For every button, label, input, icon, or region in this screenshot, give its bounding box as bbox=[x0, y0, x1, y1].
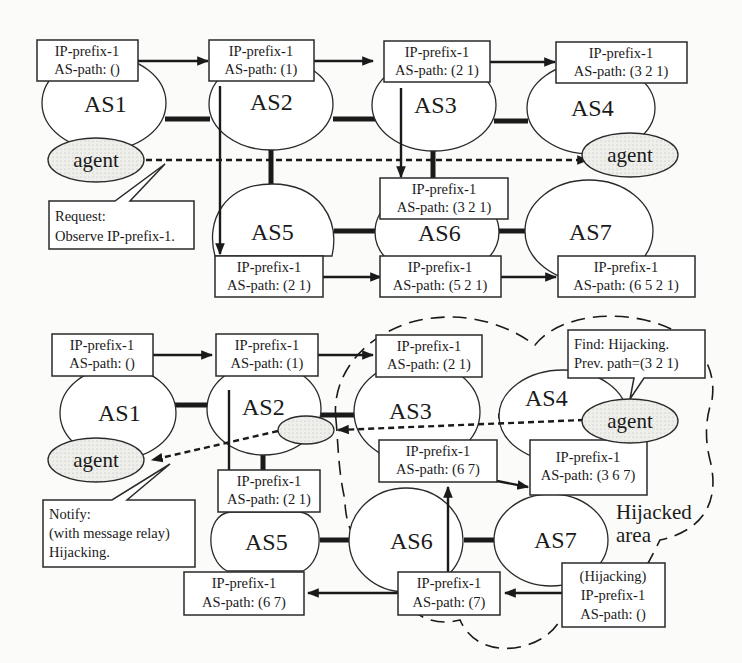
route-box: IP-prefix-1 AS-path: (2 1) bbox=[376, 335, 482, 377]
svg-text:IP-prefix-1: IP-prefix-1 bbox=[405, 44, 469, 60]
svg-text:IP-prefix-1: IP-prefix-1 bbox=[581, 587, 645, 603]
svg-text:Prev. path=(3 2 1): Prev. path=(3 2 1) bbox=[574, 355, 679, 372]
as1-label: AS1 bbox=[98, 400, 141, 426]
hijack-detection-figure: AS1 AS2 AS3 AS4 AS5 AS6 AS7 IP-prefix-1 … bbox=[0, 0, 742, 663]
as1-label: AS1 bbox=[84, 91, 127, 117]
route-box: IP-prefix-1 AS-path: (6 7) bbox=[184, 572, 304, 615]
svg-text:IP-prefix-1: IP-prefix-1 bbox=[556, 449, 620, 465]
as2-label: AS2 bbox=[242, 394, 285, 420]
svg-text:agent: agent bbox=[607, 143, 653, 167]
svg-text:AS-path: (6 7): AS-path: (6 7) bbox=[396, 461, 480, 478]
agent-node: agent bbox=[48, 138, 144, 182]
as6-label: AS6 bbox=[390, 528, 433, 554]
route-box: IP-prefix-1 AS-path: () bbox=[52, 334, 153, 376]
svg-text:IP-prefix-1: IP-prefix-1 bbox=[412, 181, 476, 197]
route-box: IP-prefix-1 AS-path: (2 1) bbox=[384, 41, 490, 82]
route-box: IP-prefix-1 AS-path: () bbox=[37, 40, 138, 81]
as2-label: AS2 bbox=[250, 89, 293, 115]
svg-text:IP-prefix-1: IP-prefix-1 bbox=[408, 259, 472, 275]
svg-text:agent: agent bbox=[73, 448, 119, 472]
top-panel: AS1 AS2 AS3 AS4 AS5 AS6 AS7 IP-prefix-1 … bbox=[37, 40, 695, 297]
svg-text:Request:: Request: bbox=[55, 208, 106, 224]
svg-text:Hijacking.: Hijacking. bbox=[49, 544, 110, 560]
svg-text:IP-prefix-1: IP-prefix-1 bbox=[594, 259, 658, 275]
route-box: IP-prefix-1 AS-path: (7) bbox=[398, 572, 500, 615]
route-box: IP-prefix-1 AS-path: (1) bbox=[216, 334, 318, 376]
svg-text:AS-path: (2 1): AS-path: (2 1) bbox=[395, 62, 479, 79]
as7-label: AS7 bbox=[534, 527, 577, 553]
svg-text:IP-prefix-1: IP-prefix-1 bbox=[417, 575, 481, 591]
as5-label: AS5 bbox=[251, 219, 294, 245]
svg-text:AS-path: (5 2 1): AS-path: (5 2 1) bbox=[393, 277, 488, 294]
agent-node: agent bbox=[582, 399, 678, 443]
route-box: IP-prefix-1 AS-path: (3 2 1) bbox=[556, 42, 687, 83]
hijacked-area-label: Hijacked area bbox=[616, 500, 692, 547]
svg-text:AS-path: (1): AS-path: (1) bbox=[225, 61, 298, 78]
svg-text:AS-path: (3 2 1): AS-path: (3 2 1) bbox=[574, 63, 669, 80]
svg-text:agent: agent bbox=[607, 409, 653, 433]
route-box: IP-prefix-1 AS-path: (2 1) bbox=[215, 256, 323, 297]
svg-text:AS-path: (2 1): AS-path: (2 1) bbox=[227, 277, 311, 294]
svg-text:AS-path: (6 5 2 1): AS-path: (6 5 2 1) bbox=[573, 277, 679, 294]
route-box: IP-prefix-1 AS-path: (5 2 1) bbox=[380, 256, 501, 297]
svg-text:IP-prefix-1: IP-prefix-1 bbox=[406, 443, 470, 459]
svg-text:IP-prefix-1: IP-prefix-1 bbox=[55, 43, 119, 59]
svg-text:Observe IP-prefix-1.: Observe IP-prefix-1. bbox=[55, 228, 175, 244]
svg-text:IP-prefix-1: IP-prefix-1 bbox=[237, 259, 301, 275]
route-box: IP-prefix-1 AS-path: (2 1) bbox=[218, 470, 320, 512]
svg-text:AS-path: (): AS-path: () bbox=[54, 61, 120, 78]
as6-label: AS6 bbox=[418, 220, 461, 246]
bottom-panel: AS1 AS2 AS3 AS4 AS5 AS6 AS7 IP-prefix-1 … bbox=[43, 316, 713, 648]
as5-label: AS5 bbox=[245, 529, 288, 555]
svg-text:AS-path: (7): AS-path: (7) bbox=[413, 594, 486, 611]
svg-text:AS-path: (2 1): AS-path: (2 1) bbox=[387, 356, 471, 373]
svg-text:agent: agent bbox=[73, 148, 119, 172]
svg-text:IP-prefix-1: IP-prefix-1 bbox=[212, 575, 276, 591]
as4-label: AS4 bbox=[571, 95, 614, 121]
as3-label: AS3 bbox=[414, 92, 457, 118]
svg-text:AS-path: (): AS-path: () bbox=[580, 606, 646, 623]
route-box: IP-prefix-1 AS-path: (3 6 7) bbox=[530, 440, 647, 495]
svg-text:Hijacked: Hijacked bbox=[616, 500, 692, 524]
route-box: IP-prefix-1 AS-path: (1) bbox=[209, 40, 314, 81]
route-box: IP-prefix-1 AS-path: (6 5 2 1) bbox=[558, 256, 695, 297]
as3-label: AS3 bbox=[389, 398, 432, 424]
svg-text:AS-path: (3 6 7): AS-path: (3 6 7) bbox=[541, 467, 636, 484]
route-box: IP-prefix-1 AS-path: (3 2 1) bbox=[380, 178, 508, 219]
route-box: IP-prefix-1 AS-path: (6 7) bbox=[379, 440, 497, 482]
svg-text:area: area bbox=[616, 523, 652, 547]
svg-text:AS-path: (1): AS-path: (1) bbox=[231, 355, 304, 372]
svg-text:IP-prefix-1: IP-prefix-1 bbox=[397, 338, 461, 354]
svg-text:AS-path: (): AS-path: () bbox=[69, 355, 135, 372]
svg-text:IP-prefix-1: IP-prefix-1 bbox=[229, 43, 293, 59]
svg-text:IP-prefix-1: IP-prefix-1 bbox=[237, 473, 301, 489]
as4-label: AS4 bbox=[525, 385, 568, 411]
svg-text:IP-prefix-1: IP-prefix-1 bbox=[70, 337, 134, 353]
svg-text:AS-path: (3 2 1): AS-path: (3 2 1) bbox=[397, 199, 492, 216]
svg-text:(Hijacking): (Hijacking) bbox=[580, 568, 647, 585]
svg-text:Find: Hijacking.: Find: Hijacking. bbox=[574, 336, 669, 352]
hijack-origin-box: (Hijacking) IP-prefix-1 AS-path: () bbox=[562, 563, 665, 627]
svg-text:IP-prefix-1: IP-prefix-1 bbox=[589, 45, 653, 61]
relay-agent-node bbox=[278, 416, 334, 444]
agent-node: agent bbox=[48, 438, 144, 482]
as7-label: AS7 bbox=[569, 219, 612, 245]
svg-text:AS-path: (2 1): AS-path: (2 1) bbox=[227, 491, 311, 508]
agent-node: agent bbox=[582, 133, 678, 177]
svg-text:(with message relay): (with message relay) bbox=[49, 525, 170, 542]
svg-text:Notify:: Notify: bbox=[49, 506, 91, 522]
svg-text:AS-path: (6 7): AS-path: (6 7) bbox=[202, 594, 286, 611]
svg-text:IP-prefix-1: IP-prefix-1 bbox=[235, 337, 299, 353]
